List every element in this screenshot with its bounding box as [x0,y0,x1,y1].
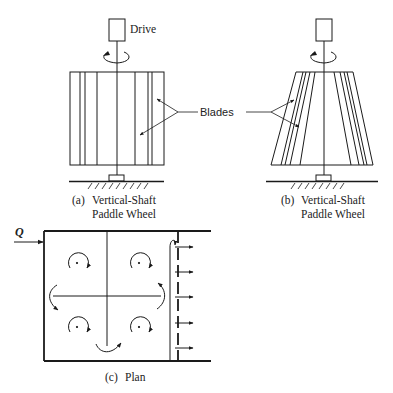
bearing-base [109,175,124,181]
channel-turn-arrow-icon [170,240,175,247]
rotation-arrow-icon [50,285,58,310]
paddle-drum-tapered [271,72,373,165]
panel-c-plan [14,231,211,361]
bearing-base [316,175,331,181]
rotation-arrow-icon [310,51,336,63]
caption-line2: Paddle Wheel [301,208,365,220]
blades-label: Blades [200,105,234,119]
caption-tag: (a) [72,193,92,207]
rotation-arrow-icon [69,253,89,268]
caption-line1: Plan [125,371,145,383]
rotation-arrow-icon [131,317,151,332]
blades-a [80,72,152,165]
outflow-arrows [175,247,193,348]
caption-tag: (c) [105,370,125,384]
rotation-arrow-icon [96,343,121,352]
caption-b: (b)Vertical-Shaft Paddle Wheel [281,193,365,221]
caption-c: (c)Plan [105,370,145,384]
drive-label: Drive [130,22,156,36]
rotation-arrow-icon [69,317,89,332]
caption-line1: Vertical-Shaft [301,194,365,206]
panel-a-paddle-wheel [69,19,164,189]
ground-hatch-icon [291,183,344,189]
rotation-arrow-icon [131,253,151,268]
inflow-q-label: Q [15,225,24,239]
caption-line1: Vertical-Shaft [92,194,156,206]
rotation-arrow-icon [103,51,129,63]
drive-motor-box [316,19,332,41]
panel-b-paddle-wheel [266,19,378,189]
caption-a: (a)Vertical-Shaft Paddle Wheel [72,193,156,221]
ground-hatch-icon [88,183,148,189]
caption-tag: (b) [281,193,301,207]
caption-line2: Paddle Wheel [92,208,156,220]
drive-motor-box [109,19,125,41]
